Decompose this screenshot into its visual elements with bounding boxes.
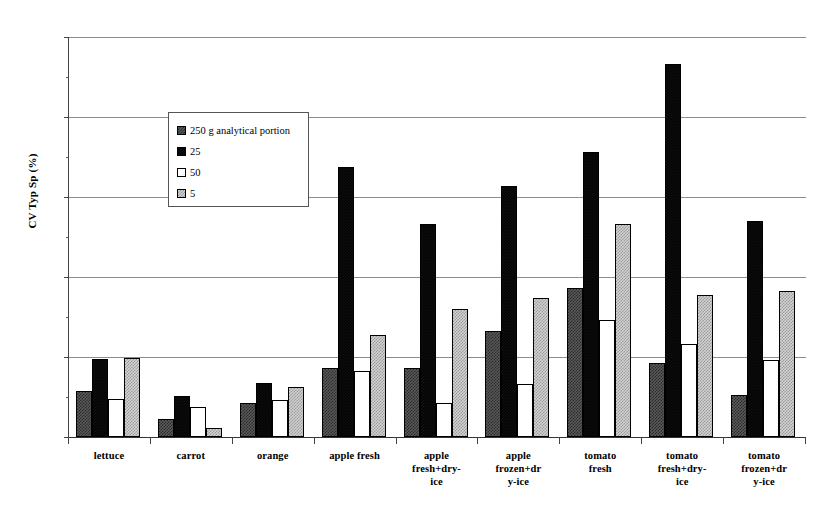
- x-axis-category-label-line: carrot: [150, 449, 232, 462]
- bar: [681, 344, 697, 437]
- legend-swatch-icon: [177, 168, 186, 177]
- bar: [420, 224, 436, 437]
- x-axis-category-label-line: orange: [232, 449, 314, 462]
- x-axis-category-label: lettuce: [68, 449, 150, 462]
- bar: [124, 358, 140, 437]
- x-axis-category-label: applefresh+dry-ice: [396, 449, 478, 488]
- x-axis-category-label: tomatofresh+dry-ice: [641, 449, 723, 488]
- y-axis-title: CV Typ Sp (%): [26, 111, 38, 271]
- bar: [517, 384, 533, 437]
- bar-group-bars: [731, 37, 795, 437]
- chart-legend: 250 g analytical portion25505: [168, 112, 309, 207]
- plot-area: 0510152025: [68, 37, 806, 437]
- bar: [370, 335, 386, 437]
- bar: [174, 396, 190, 437]
- legend-item-label: 50: [190, 167, 201, 178]
- x-axis-category-label-line: tomato: [641, 449, 723, 462]
- x-axis-category-label: tomatofrozen+dry-ice: [723, 449, 805, 488]
- bar: [322, 368, 338, 437]
- x-tick-mark: [396, 437, 397, 444]
- legend-swatch-icon: [177, 147, 186, 156]
- bar: [485, 331, 501, 437]
- bar: [76, 391, 92, 437]
- bar-group: [322, 37, 386, 437]
- bar: [731, 395, 747, 437]
- bar-group: [731, 37, 795, 437]
- bar: [779, 291, 795, 437]
- bar: [501, 186, 517, 437]
- bar: [599, 320, 615, 437]
- bar: [256, 383, 272, 437]
- bar: [649, 363, 665, 437]
- bar: [697, 295, 713, 437]
- x-tick-mark: [68, 437, 69, 444]
- legend-item-label: 5: [190, 188, 195, 199]
- y-tick-mark: [64, 117, 69, 118]
- bar: [404, 368, 420, 437]
- gridline: [69, 437, 806, 438]
- bar-group: [76, 37, 140, 437]
- bar-chart: CV Typ Sp (%) 0510152025 lettucecarrotor…: [0, 0, 838, 510]
- bar-group: [404, 37, 468, 437]
- x-tick-mark: [559, 437, 560, 444]
- bar: [747, 221, 763, 437]
- bar: [338, 167, 354, 437]
- x-axis-category-label: tomatofresh: [559, 449, 641, 475]
- y-tick-mark: [64, 197, 69, 198]
- bar: [190, 407, 206, 437]
- x-tick-mark: [477, 437, 478, 444]
- y-tick-mark: [64, 277, 69, 278]
- legend-item-label: 250 g analytical portion: [190, 125, 290, 136]
- bar: [158, 419, 174, 437]
- x-axis-category-label-line: ice: [396, 475, 478, 488]
- bar: [533, 298, 549, 437]
- bar-group: [567, 37, 631, 437]
- bar: [436, 403, 452, 437]
- x-axis-category-label-line: fresh: [559, 462, 641, 475]
- bar: [615, 224, 631, 437]
- bar-group-bars: [649, 37, 713, 437]
- x-axis-category-label: orange: [232, 449, 314, 462]
- bar: [288, 387, 304, 437]
- bar-group: [240, 37, 304, 437]
- bar: [452, 309, 468, 437]
- x-tick-mark: [723, 437, 724, 444]
- x-axis-category-label-line: frozen+dr: [723, 462, 805, 475]
- x-axis-category-label-line: apple fresh: [314, 449, 396, 462]
- bar: [92, 359, 108, 437]
- bar: [665, 64, 681, 437]
- y-tick-mark: [64, 37, 69, 38]
- bar: [272, 400, 288, 437]
- bar-group: [649, 37, 713, 437]
- x-axis-category-label-line: y-ice: [723, 475, 805, 488]
- x-tick-mark: [150, 437, 151, 444]
- x-axis-category-label-line: ice: [641, 475, 723, 488]
- x-axis-category-label-line: apple: [396, 449, 478, 462]
- bar-group: [485, 37, 549, 437]
- y-minor-tick-mark: [66, 397, 69, 398]
- bar-group-bars: [485, 37, 549, 437]
- legend-item: 50: [177, 162, 308, 183]
- bar: [240, 403, 256, 437]
- x-axis-category-label-line: tomato: [559, 449, 641, 462]
- x-axis-category-label-line: tomato: [723, 449, 805, 462]
- x-axis-category-label: apple fresh: [314, 449, 396, 462]
- x-axis-category-label: carrot: [150, 449, 232, 462]
- bar-group-bars: [240, 37, 304, 437]
- y-minor-tick-mark: [66, 317, 69, 318]
- x-axis-category-label-line: apple: [477, 449, 559, 462]
- legend-item: 5: [177, 183, 308, 204]
- y-minor-tick-mark: [66, 157, 69, 158]
- bar: [763, 360, 779, 437]
- x-axis-category-label-line: fresh+dry-: [396, 462, 478, 475]
- legend-swatch-icon: [177, 189, 186, 198]
- x-tick-mark: [805, 437, 806, 444]
- bar: [206, 428, 222, 437]
- y-tick-mark: [64, 357, 69, 358]
- x-axis-category-label-line: fresh+dry-: [641, 462, 723, 475]
- y-minor-tick-mark: [66, 237, 69, 238]
- y-minor-tick-mark: [66, 77, 69, 78]
- bar-group-bars: [76, 37, 140, 437]
- x-tick-mark: [232, 437, 233, 444]
- legend-swatch-icon: [177, 126, 186, 135]
